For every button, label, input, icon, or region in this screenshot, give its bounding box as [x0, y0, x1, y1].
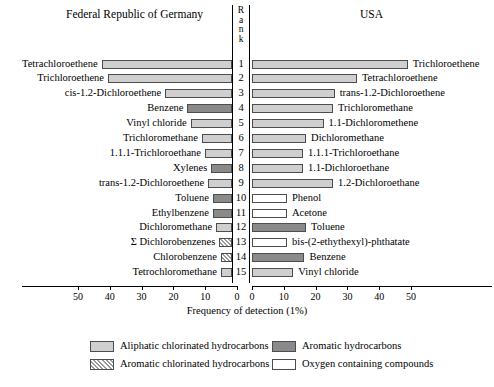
- legend-swatch-arom: [272, 341, 296, 352]
- x-axis-right: [252, 286, 492, 287]
- bar-label-right-rank-15: Vinyl chloride: [298, 266, 358, 278]
- bar-right-rank-4[interactable]: [252, 104, 333, 113]
- bar-left-rank-11[interactable]: [213, 209, 232, 218]
- rank-number-4: 4: [232, 102, 250, 114]
- bar-label-left-rank-5: Vinyl chloride: [126, 117, 186, 129]
- rank-number-14: 14: [232, 251, 250, 263]
- bar-label-right-rank-10: Phenol: [292, 192, 321, 204]
- bar-left-rank-5[interactable]: [191, 119, 232, 128]
- bar-label-left-rank-8: Xylenes: [173, 162, 207, 174]
- x-axis-right-tick-label-0: 0: [240, 291, 264, 302]
- bar-label-right-rank-8: 1.1-Dichloroethane: [308, 162, 389, 174]
- bar-label-right-rank-11: Acetone: [292, 207, 327, 219]
- legend-swatch-aliph: [90, 341, 114, 352]
- x-axis-left-tick-label-3: 20: [161, 291, 185, 302]
- bar-left-rank-2[interactable]: [108, 74, 232, 83]
- bar-label-left-rank-1: Tetrachloroethene: [22, 58, 98, 70]
- legend-label-1: Aromatic chlorinated hydrocarbons: [120, 358, 269, 369]
- bar-right-rank-2[interactable]: [252, 74, 357, 83]
- legend: Aliphatic chlorinated hydrocarbonsAromat…: [0, 336, 494, 380]
- bar-right-rank-9[interactable]: [252, 179, 333, 188]
- bar-right-rank-15[interactable]: [252, 268, 293, 277]
- legend-swatch-oxy: [272, 359, 296, 370]
- x-axis-left-tick-2: [142, 286, 143, 290]
- bar-label-left-rank-12: Dichloromethane: [139, 221, 212, 233]
- bar-left-rank-1[interactable]: [102, 60, 232, 69]
- x-axis-right-tick-2: [316, 286, 317, 290]
- bar-right-rank-13[interactable]: [252, 238, 287, 247]
- legend-label-2: Aromatic hydrocarbons: [302, 340, 401, 351]
- rank-number-9: 9: [232, 177, 250, 189]
- x-axis-right-tick-label-2: 20: [304, 291, 328, 302]
- bar-label-left-rank-2: Trichloroethene: [37, 72, 104, 84]
- rank-number-12: 12: [232, 221, 250, 233]
- bar-right-rank-10[interactable]: [252, 194, 287, 203]
- right-panel-title: USA: [360, 8, 383, 20]
- x-axis-right-tick-label-4: 40: [367, 291, 391, 302]
- legend-swatch-aromchl: [90, 359, 114, 370]
- x-axis-left-tick-3: [173, 286, 174, 290]
- bar-label-right-rank-13: bis-(2-ethythexyl)-phthatate: [292, 236, 410, 248]
- bar-label-right-rank-12: Toluene: [311, 221, 345, 233]
- rank-number-6: 6: [232, 132, 250, 144]
- chart-root: Federal Republic of Germany USA Rank Tet…: [0, 0, 494, 387]
- bar-right-rank-11[interactable]: [252, 209, 287, 218]
- bar-label-left-rank-4: Benzene: [147, 102, 183, 114]
- x-axis-left-tick-1: [110, 286, 111, 290]
- bar-right-rank-1[interactable]: [252, 60, 408, 69]
- bar-label-left-rank-7: 1.1.1-Trichloroethane: [110, 147, 201, 159]
- x-axis-left-tick-4: [205, 286, 206, 290]
- bar-label-right-rank-14: Benzene: [309, 251, 345, 263]
- bar-label-left-rank-15: Tetrochloromethane: [132, 266, 216, 278]
- legend-label-0: Aliphatic chlorinated hydrocarbons: [120, 340, 269, 351]
- rank-title-letter: k: [232, 35, 250, 45]
- x-axis-left-tick-0: [78, 286, 79, 290]
- x-axis-label: Frequency of detection (1%): [0, 305, 494, 316]
- bar-right-rank-3[interactable]: [252, 89, 335, 98]
- bar-left-rank-6[interactable]: [202, 134, 232, 143]
- bar-right-rank-6[interactable]: [252, 134, 306, 143]
- bar-left-rank-12[interactable]: [216, 223, 232, 232]
- bar-label-right-rank-2: Tetrachloroethene: [362, 72, 438, 84]
- bar-label-left-rank-11: Ethylbenzene: [152, 207, 209, 219]
- rank-number-11: 11: [232, 207, 250, 219]
- bar-left-rank-10[interactable]: [213, 194, 232, 203]
- rank-number-1: 1: [232, 58, 250, 70]
- x-axis-right-tick-label-5: 50: [399, 291, 423, 302]
- bar-label-right-rank-4: Trichloromethane: [338, 102, 413, 114]
- bar-right-rank-12[interactable]: [252, 223, 306, 232]
- bar-left-rank-14[interactable]: [221, 253, 232, 262]
- bar-right-rank-5[interactable]: [252, 119, 324, 128]
- left-panel-title: Federal Republic of Germany: [66, 8, 203, 20]
- x-axis-left-tick-label-4: 10: [193, 291, 217, 302]
- bar-label-right-rank-1: Trichloroethene: [413, 58, 480, 70]
- bar-label-left-rank-14: Chlorobenzene: [153, 251, 217, 263]
- x-axis-right-tick-5: [411, 286, 412, 290]
- x-axis-left-tick-label-0: 50: [66, 291, 90, 302]
- x-axis-left-tick-label-2: 30: [130, 291, 154, 302]
- bar-label-left-rank-13: Σ Dichlorobenzenes: [131, 236, 216, 248]
- bar-right-rank-7[interactable]: [252, 149, 303, 158]
- bar-label-right-rank-9: 1.2-Dichloroethane: [338, 177, 419, 189]
- bar-left-rank-7[interactable]: [205, 149, 232, 158]
- bar-left-rank-9[interactable]: [208, 179, 232, 188]
- rank-number-2: 2: [232, 72, 250, 84]
- bar-left-rank-3[interactable]: [165, 89, 232, 98]
- bar-right-rank-8[interactable]: [252, 164, 303, 173]
- bar-label-left-rank-6: Trichloromethane: [123, 132, 198, 144]
- rank-number-8: 8: [232, 162, 250, 174]
- x-axis-right-tick-4: [379, 286, 380, 290]
- bar-left-rank-4[interactable]: [187, 104, 232, 113]
- bar-left-rank-15[interactable]: [221, 268, 232, 277]
- bar-label-left-rank-10: Toluene: [175, 192, 209, 204]
- bar-label-right-rank-3: trans-1.2-Dichloroethene: [340, 87, 445, 99]
- x-axis-right-tick-label-1: 10: [272, 291, 296, 302]
- bar-left-rank-8[interactable]: [211, 164, 232, 173]
- bar-label-right-rank-6: Dichloromethane: [311, 132, 384, 144]
- rank-number-5: 5: [232, 117, 250, 129]
- x-axis-right-tick-1: [284, 286, 285, 290]
- bar-left-rank-13[interactable]: [219, 238, 232, 247]
- bar-right-rank-14[interactable]: [252, 253, 304, 262]
- rank-number-10: 10: [232, 192, 250, 204]
- bar-label-left-rank-3: cis-1.2-Dichloroethene: [65, 87, 162, 99]
